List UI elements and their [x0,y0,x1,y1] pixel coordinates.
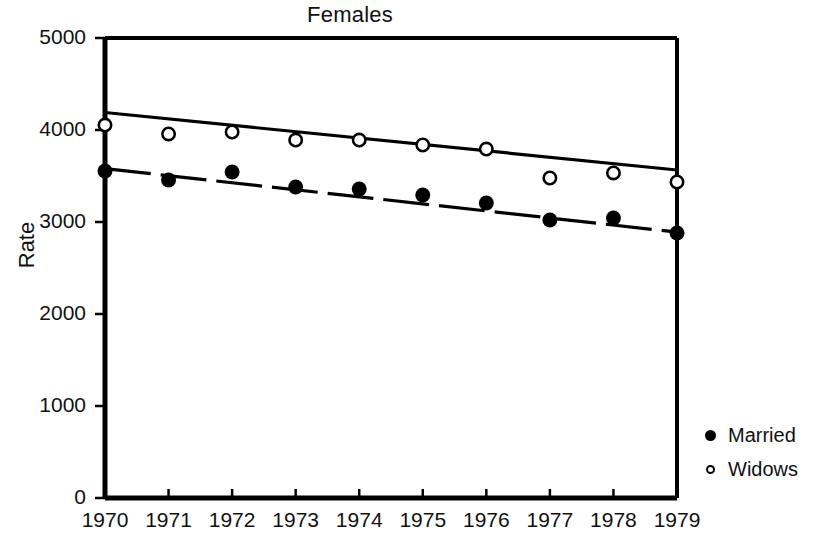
data-point-married [542,212,557,227]
data-point-married [225,165,240,180]
data-point-widows [417,139,429,151]
data-point-married [415,188,430,203]
y-tick-label: 4000 [16,117,86,141]
y-tick-label: 2000 [16,301,86,325]
data-point-widows [544,172,556,184]
y-tick-label-wrap: 2000 [16,301,86,325]
data-point-married [479,195,494,210]
data-point-married [606,211,621,226]
chart-legend: Married Widows [700,418,816,486]
open-circle-icon [700,459,720,479]
y-tick-label-wrap: 4000 [16,117,86,141]
legend-item-married: Married [700,418,816,452]
data-point-widows [480,143,492,155]
trend-line-widows [105,113,677,171]
legend-item-widows: Widows [700,452,816,486]
y-tick-label-wrap: 3000 [16,209,86,233]
y-tick-label-wrap: 1000 [16,393,86,417]
legend-item-label: Married [728,424,796,447]
data-point-widows [671,176,683,188]
legend-item-label: Widows [728,458,798,481]
data-point-married [670,226,685,241]
y-tick-label: 3000 [16,209,86,233]
x-tick-label: 1979 [639,508,715,532]
data-point-widows [607,167,619,179]
y-tick-label-wrap: 5000 [16,25,86,49]
plot-area [0,0,816,538]
data-point-married [352,181,367,196]
trend-line-married [105,169,677,232]
data-series [98,113,685,241]
chart-figure: Females Rate 010002000300040005000 19701… [0,0,816,538]
filled-circle-icon [700,425,720,445]
data-point-married [161,173,176,188]
data-point-married [98,164,113,179]
data-point-widows [289,134,301,146]
y-tick-label: 1000 [16,393,86,417]
data-point-widows [226,126,238,138]
y-tick-label-wrap: 0 [16,485,86,509]
y-tick-label: 5000 [16,25,86,49]
data-point-widows [99,119,111,131]
axes [95,38,677,498]
data-point-widows [353,134,365,146]
y-tick-label: 0 [16,485,86,509]
data-point-widows [162,128,174,140]
data-point-married [288,180,303,195]
